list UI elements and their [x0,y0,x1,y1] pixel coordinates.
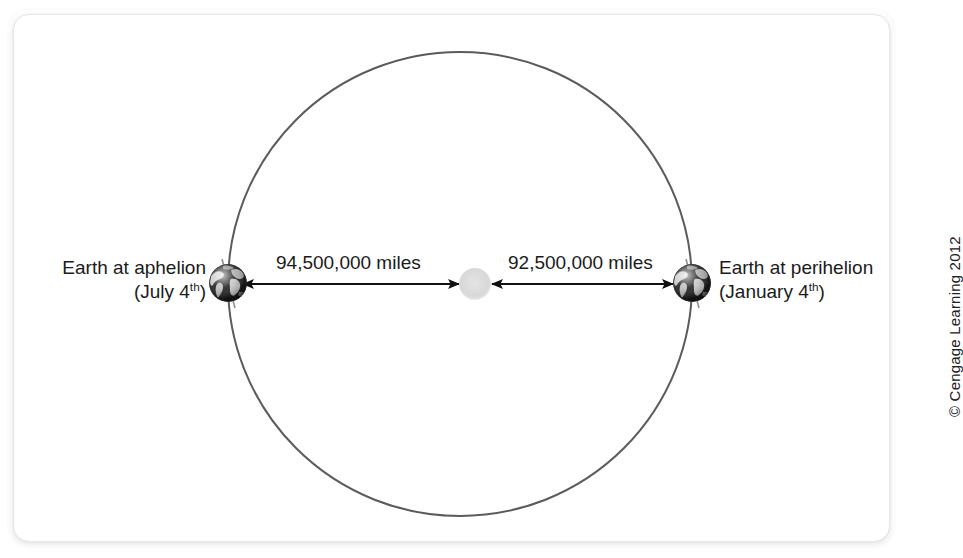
distance-label-perihelion: 92,500,000 miles [508,252,653,274]
distance-label-aphelion: 94,500,000 miles [276,252,421,274]
label-perihelion-line1: Earth at perihelion [719,256,919,280]
label-perihelion-date-prefix: (January 4 [719,281,809,302]
label-earth-at-perihelion: Earth at perihelion (January 4th) [719,256,919,304]
sun-icon [459,268,491,300]
label-aphelion-line1: Earth at aphelion [31,256,206,280]
label-aphelion-date-prefix: (July 4 [134,281,190,302]
label-aphelion-date-ordinal: th [190,280,200,293]
label-aphelion-line2: (July 4th) [31,280,206,304]
copyright-credit: © Cengage Learning 2012 [946,395,963,417]
label-perihelion-date-ordinal: th [809,280,819,293]
label-aphelion-date-suffix: ) [200,281,206,302]
label-perihelion-line2: (January 4th) [719,280,919,304]
label-perihelion-date-suffix: ) [819,281,825,302]
label-earth-at-aphelion: Earth at aphelion (July 4th) [31,256,206,304]
earth-globe-perihelion-icon [673,264,711,302]
earth-globe-aphelion-icon [209,264,247,302]
